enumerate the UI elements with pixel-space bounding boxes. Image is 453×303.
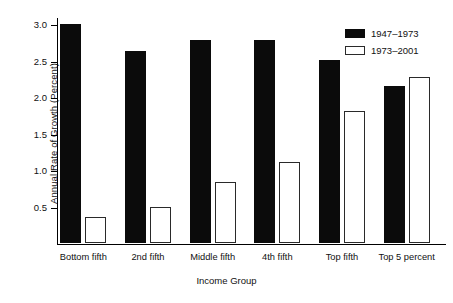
bar xyxy=(254,40,275,243)
y-axis-tick-label: 3.0 xyxy=(34,19,47,30)
y-axis-tick-label: 2.0 xyxy=(34,92,47,103)
x-axis-tick-label: Bottom fifth xyxy=(60,252,107,262)
bar xyxy=(60,24,81,243)
bar xyxy=(384,86,405,243)
legend-item: 1973–2001 xyxy=(345,43,419,58)
x-axis-tick-label: 2nd fifth xyxy=(131,252,164,262)
bar xyxy=(279,162,300,243)
bar xyxy=(344,111,365,243)
legend-item-label: 1973–2001 xyxy=(371,45,419,56)
x-axis-line xyxy=(57,244,446,245)
y-axis-tick-label: 0.5 xyxy=(34,202,47,213)
y-axis-tick-label: 1.0 xyxy=(34,165,47,176)
x-axis-tick-label: Middle fifth xyxy=(190,252,235,262)
bar xyxy=(125,51,146,243)
y-axis-tick-label: 1.5 xyxy=(34,129,47,140)
bar xyxy=(150,207,171,243)
bar xyxy=(85,217,106,243)
legend-swatch-icon xyxy=(345,29,365,38)
bar-chart: Annual Rate of Growth (Percent) 0.51.01.… xyxy=(0,0,453,303)
bar xyxy=(409,77,430,243)
legend-item-label: 1947–1973 xyxy=(371,28,419,39)
legend-swatch-icon xyxy=(345,46,365,55)
bar xyxy=(215,182,236,243)
x-axis-title: Income Group xyxy=(0,275,453,286)
bar xyxy=(319,60,340,243)
x-axis-tick-label: 4th fifth xyxy=(262,252,293,262)
y-axis-tick-label: 2.5 xyxy=(34,56,47,67)
x-axis-tick-label: Top fifth xyxy=(326,252,359,262)
x-axis-tick-label: Top 5 percent xyxy=(378,252,434,262)
bar xyxy=(190,40,211,243)
legend-item: 1947–1973 xyxy=(345,26,419,41)
legend: 1947–19731973–2001 xyxy=(345,26,419,60)
